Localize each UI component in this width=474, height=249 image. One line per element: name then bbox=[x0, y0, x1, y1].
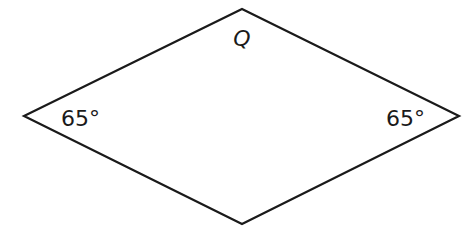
rhombus-diagram: Q 65° 65° bbox=[0, 0, 474, 249]
angle-label-right: 65° bbox=[386, 106, 425, 131]
angle-label-left: 65° bbox=[61, 106, 100, 131]
vertex-label-q: Q bbox=[233, 26, 250, 51]
